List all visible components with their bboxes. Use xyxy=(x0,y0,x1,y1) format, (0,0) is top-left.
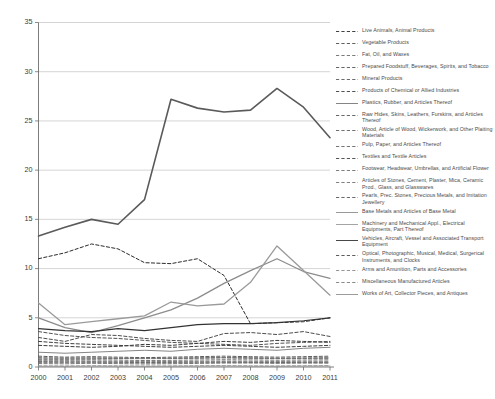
legend-item[interactable]: Pulp, Paper, and Articles Thereof xyxy=(336,141,495,151)
legend-item-label: Raw Hides, Skins, Leathers, Furskins, an… xyxy=(362,110,495,123)
legend-item[interactable]: Prepared Foodstuff, Beverages, Spirits, … xyxy=(336,62,495,72)
dashed-line-icon xyxy=(336,111,358,120)
legend-item-label: Textiles and Textile Articles xyxy=(362,153,426,160)
dashed-line-icon xyxy=(336,27,358,36)
legend-item-label: Mineral Products xyxy=(362,74,403,81)
legend-item-label: Products of Chemical or Allied Industrie… xyxy=(362,86,459,93)
y-axis-tick-label: 35 xyxy=(25,17,33,26)
solid-line-icon xyxy=(336,208,358,217)
x-axis-tick-label: 2007 xyxy=(216,373,232,382)
legend-item-label: Vegetable Products xyxy=(362,38,409,45)
series-line xyxy=(39,356,331,357)
legend-item[interactable]: Live Animals, Animal Products xyxy=(336,26,495,36)
dashed-line-icon xyxy=(336,87,358,96)
legend-item-label: Footwear, Headwear, Umbrellas, and Artif… xyxy=(362,165,489,172)
series-line xyxy=(39,246,331,325)
x-axis-tick-label: 2005 xyxy=(163,373,179,382)
x-axis-tick-label: 2000 xyxy=(31,373,47,382)
legend-item[interactable]: Footwear, Headwear, Umbrellas, and Artif… xyxy=(336,165,495,175)
legend-item-label: Pearls, Prec. Stones, Precious Metals, a… xyxy=(362,192,495,205)
legend-item[interactable]: Mineral Products xyxy=(336,74,495,84)
series-line xyxy=(39,88,331,236)
legend-item-label: Articles of Stones, Cement, Plaster, Mic… xyxy=(362,177,495,190)
legend-item[interactable]: Machinery and Mechanical Appl., Electric… xyxy=(336,219,495,232)
dashed-line-icon xyxy=(336,178,358,187)
legend-item[interactable]: Textiles and Textile Articles xyxy=(336,153,495,163)
legend-item-label: Plastics, Rubber, and Articles Thereof xyxy=(362,98,452,105)
legend-item-label: Base Metals and Articles of Base Metal xyxy=(362,207,456,214)
legend-item-label: Wood, Article of Wood, Wickerwork, and O… xyxy=(362,125,495,138)
dashed-line-icon xyxy=(336,278,358,287)
legend-item-label: Works of Art, Collector Pieces, and Anti… xyxy=(362,289,468,296)
x-axis-tick-label: 2006 xyxy=(190,373,206,382)
solid-line-icon xyxy=(336,236,358,245)
y-axis-tick-label: 5 xyxy=(29,313,33,322)
x-axis-tick-label: 2001 xyxy=(57,373,73,382)
legend-item-label: Vehicles, Aircraft, Vessel and Associate… xyxy=(362,235,495,248)
plot-area: 0510152025303520002001200220032004200520… xyxy=(0,0,340,399)
legend-item-label: Optical, Photographic, Musical, Medical,… xyxy=(362,250,495,263)
series-line xyxy=(39,318,331,332)
legend-item-label: Prepared Foodstuff, Beverages, Spirits, … xyxy=(362,62,489,69)
legend-item-label: Live Animals, Animal Products xyxy=(362,26,434,33)
dashed-line-icon xyxy=(336,266,358,275)
legend-item[interactable]: Miscellaneous Manufactured Articles xyxy=(336,277,495,287)
legend-item[interactable]: Wood, Article of Wood, Wickerwork, and O… xyxy=(336,125,495,138)
legend-item[interactable]: Fat, Oil, and Waxes xyxy=(336,50,495,60)
plot-svg: 0510152025303520002001200220032004200520… xyxy=(0,0,340,399)
line-chart: 0510152025303520002001200220032004200520… xyxy=(0,0,495,399)
series-line xyxy=(39,361,331,362)
y-axis-tick-label: 30 xyxy=(25,67,33,76)
dashed-line-icon xyxy=(336,51,358,60)
x-axis-tick-label: 2004 xyxy=(137,373,153,382)
series-line xyxy=(39,358,331,359)
dashed-line-icon xyxy=(336,126,358,135)
legend-item-label: Miscellaneous Manufactured Articles xyxy=(362,277,450,284)
legend-item[interactable]: Vegetable Products xyxy=(336,38,495,48)
series-line xyxy=(39,360,331,361)
y-axis-tick-label: 20 xyxy=(25,165,33,174)
legend-item-label: Machinery and Mechanical Appl., Electric… xyxy=(362,219,495,232)
dashed-line-icon xyxy=(336,251,358,260)
legend-item[interactable]: Vehicles, Aircraft, Vessel and Associate… xyxy=(336,235,495,248)
legend-item[interactable]: Base Metals and Articles of Base Metal xyxy=(336,207,495,217)
dashed-line-icon xyxy=(336,75,358,84)
dashed-line-icon xyxy=(336,142,358,151)
legend-item-label: Pulp, Paper, and Articles Thereof xyxy=(362,141,441,148)
solid-line-icon xyxy=(336,290,358,299)
legend-item[interactable]: Raw Hides, Skins, Leathers, Furskins, an… xyxy=(336,110,495,123)
x-axis-tick-label: 2009 xyxy=(269,373,285,382)
dashed-line-icon xyxy=(336,193,358,202)
x-axis-tick-label: 2010 xyxy=(296,373,312,382)
y-axis-tick-label: 0 xyxy=(29,362,33,371)
solid-line-icon xyxy=(336,220,358,229)
solid-line-icon xyxy=(336,99,358,108)
dashed-line-icon xyxy=(336,154,358,163)
x-axis-tick-label: 2003 xyxy=(110,373,126,382)
legend-item[interactable]: Pearls, Prec. Stones, Precious Metals, a… xyxy=(336,192,495,205)
y-axis-tick-label: 15 xyxy=(25,214,33,223)
legend-item[interactable]: Arms and Amunition, Parts and Accessorie… xyxy=(336,265,495,275)
legend-item[interactable]: Products of Chemical or Allied Industrie… xyxy=(336,86,495,96)
dashed-line-icon xyxy=(336,63,358,72)
legend-item[interactable]: Articles of Stones, Cement, Plaster, Mic… xyxy=(336,177,495,190)
legend-item[interactable]: Works of Art, Collector Pieces, and Anti… xyxy=(336,289,495,299)
x-axis-tick-label: 2008 xyxy=(243,373,259,382)
series-line xyxy=(39,347,331,353)
series-line xyxy=(39,244,331,324)
dashed-line-icon xyxy=(336,166,358,175)
chart-legend: Live Animals, Animal ProductsVegetable P… xyxy=(336,26,495,376)
x-axis-tick-label: 2002 xyxy=(84,373,100,382)
y-axis-tick-label: 25 xyxy=(25,116,33,125)
dashed-line-icon xyxy=(336,39,358,48)
y-axis-tick-label: 10 xyxy=(25,263,33,272)
legend-item[interactable]: Optical, Photographic, Musical, Medical,… xyxy=(336,250,495,263)
legend-item-label: Fat, Oil, and Waxes xyxy=(362,50,409,57)
legend-item[interactable]: Plastics, Rubber, and Articles Thereof xyxy=(336,98,495,108)
legend-item-label: Arms and Amunition, Parts and Accessorie… xyxy=(362,265,467,272)
